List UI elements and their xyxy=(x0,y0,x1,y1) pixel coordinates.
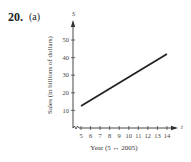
x-tick-label: 14 xyxy=(164,132,171,139)
line-chart: St5678910111213141020304050Year (5 ↔ 200… xyxy=(0,0,191,162)
x-axis-title: Year (5 ↔ 2005) xyxy=(90,144,138,152)
y-tick-label: 10 xyxy=(63,107,70,114)
x-tick-label: 12 xyxy=(145,132,152,139)
y-axis-arrow-icon xyxy=(71,20,75,27)
x-tick-label: 8 xyxy=(108,132,111,139)
plot-area xyxy=(81,54,167,106)
x-tick-label: 11 xyxy=(135,132,141,139)
x-tick-label: 6 xyxy=(89,132,93,139)
data-line xyxy=(81,54,167,106)
y-tick-label: 20 xyxy=(63,89,70,96)
axis-break-icon xyxy=(73,126,79,129)
y-tick-label: 40 xyxy=(63,54,70,61)
y-tick-label: 30 xyxy=(63,71,70,78)
y-tick-label: 50 xyxy=(63,36,70,43)
x-tick-label: 5 xyxy=(79,132,82,139)
x-tick-label: 9 xyxy=(118,132,121,139)
axes: St5678910111213141020304050Year (5 ↔ 200… xyxy=(46,10,183,152)
x-axis-arrow-icon xyxy=(171,126,178,130)
x-axis-variable: t xyxy=(181,123,183,130)
x-tick-label: 7 xyxy=(98,132,102,139)
x-tick-label: 13 xyxy=(154,132,161,139)
y-axis-variable: S xyxy=(72,10,76,17)
y-axis-title: Sales (in billions of dollars) xyxy=(46,35,54,113)
x-tick-label: 10 xyxy=(126,132,133,139)
